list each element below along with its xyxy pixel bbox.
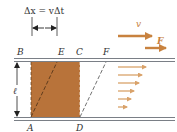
velocity-profile: [118, 67, 146, 107]
label-D: D: [75, 123, 83, 132]
viscous-flow-diagram: Δx = vΔt ℓ B E C F A D v F: [0, 0, 177, 132]
fluid-element: [31, 62, 80, 117]
velocity-label: v: [136, 19, 141, 29]
label-B: B: [16, 47, 24, 57]
label-A: A: [26, 123, 34, 132]
diagonal-DF: [80, 62, 106, 117]
label-E: E: [57, 47, 65, 57]
label-C: C: [76, 47, 83, 57]
force-label: F: [156, 36, 164, 46]
label-F: F: [102, 47, 110, 57]
length-label: ℓ: [13, 86, 17, 96]
delta-x-formula: Δx = vΔt: [24, 6, 64, 16]
